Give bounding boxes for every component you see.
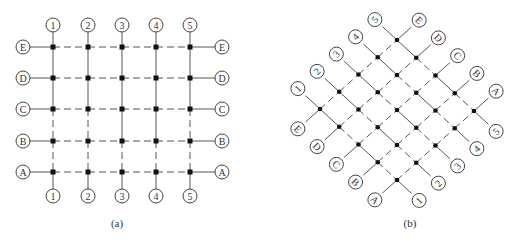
axis-bubble-col-1: 1 [291, 82, 305, 96]
row-axis-segment [359, 127, 378, 144]
caption-a: (a) [111, 217, 123, 229]
row-axis-segment [378, 75, 397, 92]
grid-node [86, 45, 91, 50]
axis-bubble-row-C: C [215, 102, 229, 116]
grid-node [356, 107, 361, 112]
grid-node [51, 45, 56, 50]
row-axis-extension [397, 27, 411, 40]
grid-node [154, 139, 159, 144]
svg-text:A: A [218, 167, 226, 178]
row-axis-extension [383, 180, 397, 193]
axis-bubble-row-E: E [291, 122, 305, 136]
row-axis-segment [378, 145, 397, 162]
column-axis-segment [455, 93, 474, 111]
column-axis-segment [397, 110, 416, 128]
row-axis-segment [397, 93, 416, 110]
grid-node [395, 178, 400, 183]
axis-bubble-row-D: D [16, 71, 30, 85]
grid-node [337, 124, 342, 129]
grid-node [120, 107, 125, 112]
row-axis-extension [306, 109, 320, 122]
column-axis-segment [436, 111, 455, 129]
axis-bubble-row-E: E [412, 13, 426, 27]
axis-bubble-row-D: D [310, 140, 324, 154]
axis-bubble-row-B: B [16, 134, 30, 148]
column-axis-segment [378, 57, 397, 75]
row-axis-segment [339, 75, 358, 92]
axis-bubble-col-3: 3 [329, 47, 343, 61]
row-axis-extension [416, 45, 430, 58]
grid-node [395, 108, 400, 113]
axis-bubble-row-E: E [16, 40, 30, 54]
grid-node [414, 55, 419, 60]
column-axis-segment [378, 127, 397, 145]
row-axis-segment [416, 76, 435, 93]
grid-node [452, 91, 457, 96]
column-axis-extension [383, 27, 397, 40]
grid-node [154, 170, 159, 175]
grid-node [120, 45, 125, 50]
grid-node [375, 160, 380, 165]
column-axis-segment [436, 76, 455, 94]
svg-text:B: B [20, 136, 27, 147]
row-axis-segment [436, 93, 455, 110]
column-axis-extension [325, 78, 339, 91]
row-axis-segment [320, 92, 339, 109]
svg-text:E: E [20, 42, 26, 53]
row-axis-extension [325, 127, 339, 140]
svg-text:D: D [19, 73, 26, 84]
axis-bubble-row-A: A [16, 165, 30, 179]
grid-diagram-b: 1122334455EEDDCCBBAA [291, 13, 503, 208]
row-axis-extension [474, 98, 488, 111]
grid-node [86, 107, 91, 112]
grid-node [188, 107, 193, 112]
grid-node [356, 142, 361, 147]
axis-bubble-row-C: C [329, 157, 343, 171]
column-axis-segment [416, 128, 435, 146]
column-axis-segment [416, 93, 435, 111]
grid-node [375, 55, 380, 60]
column-axis-segment [359, 110, 378, 128]
axis-bubble-col-5: 5 [368, 13, 382, 27]
svg-text:4: 4 [154, 20, 159, 31]
column-axis-extension [416, 163, 430, 176]
column-axis-segment [339, 92, 358, 110]
svg-text:4: 4 [154, 191, 159, 202]
axis-bubble-col-5: 5 [489, 124, 503, 138]
grid-node [433, 108, 438, 113]
svg-text:1: 1 [51, 20, 56, 31]
grid-node [51, 107, 56, 112]
grid-node [452, 126, 457, 131]
axis-bubble-row-A: A [489, 84, 503, 98]
axis-bubble-col-2: 2 [310, 64, 324, 78]
axis-bubble-col-2: 2 [81, 189, 95, 203]
svg-text:2: 2 [86, 20, 91, 31]
axis-bubble-col-1: 1 [46, 18, 60, 32]
grid-node [375, 125, 380, 130]
svg-text:5: 5 [188, 20, 193, 31]
row-axis-extension [436, 63, 450, 76]
row-axis-segment [436, 128, 455, 145]
axis-bubble-col-5: 5 [183, 189, 197, 203]
grid-node [433, 73, 438, 78]
axis-bubble-col-1: 1 [46, 189, 60, 203]
axis-bubble-col-3: 3 [115, 18, 129, 32]
grid-diagram-a: EEDDCCBBAA1122334455 [16, 18, 229, 203]
grid-node [120, 76, 125, 81]
column-axis-segment [416, 58, 435, 76]
axis-bubble-col-5: 5 [183, 18, 197, 32]
axis-bubble-col-4: 4 [349, 30, 363, 44]
diagram-canvas: EEDDCCBBAA1122334455 1122334455EEDDCCBBA… [0, 0, 511, 240]
row-axis-segment [378, 40, 397, 57]
axis-bubble-col-2: 2 [431, 176, 445, 190]
grid-node [395, 143, 400, 148]
grid-node [188, 139, 193, 144]
axis-bubble-row-B: B [215, 134, 229, 148]
grid-node [188, 170, 193, 175]
grid-node [154, 45, 159, 50]
svg-text:2: 2 [86, 191, 91, 202]
grid-node [51, 76, 56, 81]
axis-bubble-col-3: 3 [451, 159, 465, 173]
column-axis-segment [359, 75, 378, 93]
grid-node [375, 90, 380, 95]
